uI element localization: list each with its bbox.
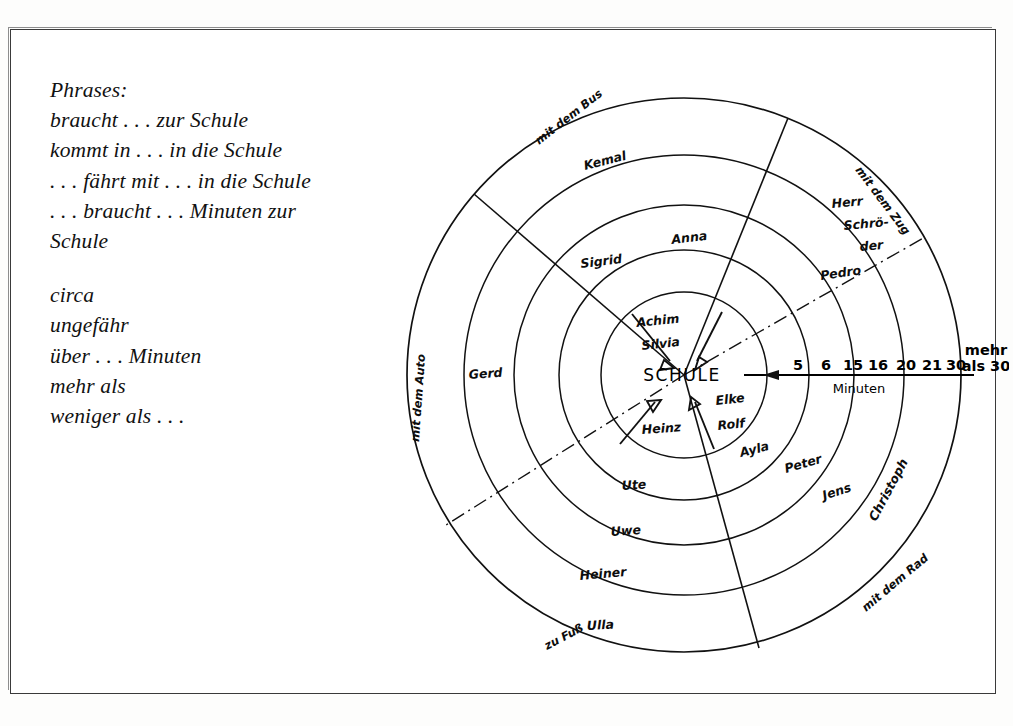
sector-label-bus: mit dem Bus bbox=[532, 86, 605, 147]
qualifier-line-3: über . . . Minuten bbox=[50, 341, 380, 371]
page-frame-border: Phrases: braucht . . . zur Schule kommt … bbox=[10, 29, 996, 694]
tick-label-16: 16 bbox=[868, 357, 888, 373]
qualifier-line-5: weniger als . . . bbox=[50, 401, 380, 431]
name-ayla: Ayla bbox=[737, 438, 770, 460]
sector-label-rad: mit dem Rad bbox=[859, 550, 932, 614]
phrase-line-3: . . . fährt mit . . . in die Schule bbox=[50, 166, 380, 196]
name-jens: Jens bbox=[817, 479, 853, 503]
axis-arrow-head bbox=[763, 370, 779, 380]
target-circle-diagram: SCHULE 5 6 15 16 20 21 30 Minuten mehr a… bbox=[389, 52, 1009, 682]
phrases-panel: Phrases: braucht . . . zur Schule kommt … bbox=[50, 75, 380, 431]
tick-label-21: 21 bbox=[922, 357, 942, 373]
name-rolf: Rolf bbox=[717, 415, 747, 433]
tick-label-6: 6 bbox=[821, 357, 831, 373]
phrase-line-5: Schule bbox=[50, 226, 380, 256]
name-achim: Achim bbox=[635, 311, 680, 331]
name-silvia: Silvia bbox=[641, 334, 681, 353]
arrow-from-zug bbox=[697, 312, 722, 361]
tick-label-15: 15 bbox=[843, 357, 863, 373]
name-elke: Elke bbox=[715, 390, 746, 408]
axis-unit-label: Minuten bbox=[833, 381, 886, 396]
name-schroeder-part1: Schrö- bbox=[843, 214, 889, 233]
divider-zug-rad bbox=[684, 237, 925, 375]
phrase-line-1: braucht . . . zur Schule bbox=[50, 105, 380, 135]
name-ulla: Ulla bbox=[586, 617, 614, 633]
phrases-spacer bbox=[50, 256, 380, 280]
divider-bus-zug bbox=[684, 118, 788, 375]
divider-rad-fuss bbox=[684, 375, 759, 648]
center-label-schule: SCHULE bbox=[643, 365, 721, 385]
tick-label-mehr: mehr bbox=[965, 342, 1008, 358]
sector-label-fuss: zu Fuß bbox=[541, 621, 586, 654]
tick-label-20: 20 bbox=[896, 357, 916, 373]
tick-label-5: 5 bbox=[793, 357, 803, 373]
phrase-line-2: kommt in . . . in die Schule bbox=[50, 135, 380, 165]
qualifier-line-1: circa bbox=[50, 280, 380, 310]
name-peter: Peter bbox=[783, 451, 824, 476]
sector-label-auto: mit dem Auto bbox=[408, 353, 428, 442]
name-schroeder-part2: der bbox=[859, 237, 885, 254]
name-herr: Herr bbox=[831, 193, 864, 211]
phrases-heading: Phrases: bbox=[50, 75, 380, 105]
phrase-line-4: . . . braucht . . . Minuten zur bbox=[50, 196, 380, 226]
page-root: Phrases: braucht . . . zur Schule kommt … bbox=[0, 0, 1013, 726]
minutes-axis: 5 6 15 16 20 21 30 Minuten mehr als 30 bbox=[744, 342, 1009, 396]
name-heinz: Heinz bbox=[641, 419, 682, 437]
name-ute: Ute bbox=[621, 476, 647, 493]
name-gerd: Gerd bbox=[468, 365, 504, 382]
name-anna: Anna bbox=[670, 228, 708, 247]
tick-label-als-30: als 30 bbox=[962, 358, 1009, 374]
name-uwe: Uwe bbox=[610, 522, 641, 539]
qualifier-line-2: ungefähr bbox=[50, 310, 380, 340]
name-sigrid: Sigrid bbox=[580, 251, 624, 271]
name-heiner: Heiner bbox=[579, 564, 628, 583]
qualifier-line-4: mehr als bbox=[50, 371, 380, 401]
name-pedro: Pedro bbox=[819, 262, 862, 283]
